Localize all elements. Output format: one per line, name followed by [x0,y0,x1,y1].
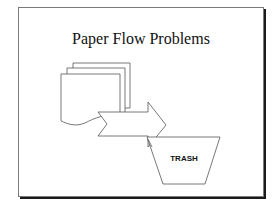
diagram-canvas [0,0,277,209]
trash-label: TRASH [167,154,201,163]
